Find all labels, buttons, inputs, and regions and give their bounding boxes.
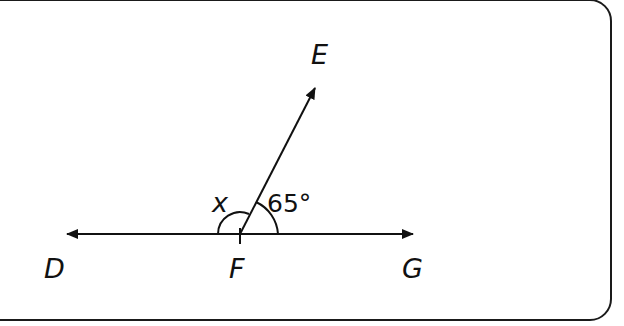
label-d: D — [44, 253, 65, 284]
label-f: F — [229, 253, 245, 284]
angle-diagram: E x 65° D F G — [0, 0, 624, 326]
label-angle-x: x — [211, 187, 229, 218]
label-g: G — [402, 253, 423, 284]
label-angle-65: 65° — [267, 189, 311, 218]
label-e: E — [311, 39, 328, 70]
